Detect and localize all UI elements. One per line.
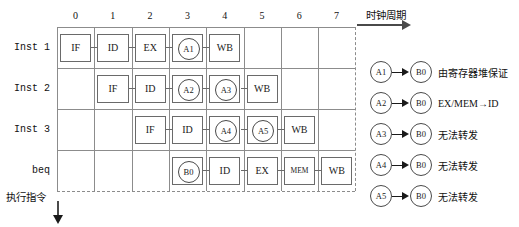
legend-source-a4: A4 (370, 154, 392, 176)
stage-box-wb: WB (321, 157, 352, 185)
stage-box-ex: EX (135, 34, 166, 62)
legend-note: 无法转发 (438, 127, 478, 142)
grid-line-v-0 (57, 27, 58, 191)
pipeline-timing-diagram: 01234567时钟周期执行指令Inst 1IFIDEXMEMWBA1Inst … (0, 0, 519, 227)
legend-target-b0: B0 (410, 185, 432, 207)
legend-arrow-icon (392, 124, 410, 144)
legend-arrow-icon (392, 155, 410, 175)
grid-line-v-1 (94, 27, 95, 191)
x-axis-caption: 时钟周期 (366, 7, 406, 22)
legend-target-b0: B0 (410, 154, 432, 176)
legend-target-b0: B0 (410, 92, 432, 114)
grid-line-v-5 (244, 27, 245, 191)
marker-circle-a2: A2 (178, 79, 200, 101)
legend-note: 无法转发 (438, 158, 478, 173)
legend-row-0: A1B0由寄存器堆保证 (370, 62, 508, 82)
legend-source-a5: A5 (370, 185, 392, 207)
stage-box-id: ID (97, 34, 128, 62)
legend-target-b0: B0 (410, 123, 432, 145)
marker-circle-a1: A1 (178, 38, 200, 60)
column-header-5: 5 (244, 10, 281, 21)
grid-line-v-3 (169, 27, 170, 191)
grid-line-v-4 (206, 27, 207, 191)
legend-row-4: A5B0无法转发 (370, 186, 478, 206)
column-header-7: 7 (318, 10, 355, 21)
column-header-6: 6 (281, 10, 318, 21)
marker-circle-a5: A5 (252, 120, 274, 142)
stage-box-if: IF (60, 34, 91, 62)
legend-note: 由寄存器堆保证 (438, 65, 508, 80)
marker-circle-b0: B0 (178, 161, 200, 183)
row-label-1: Inst 2 (2, 83, 50, 94)
stage-box-wb: WB (247, 75, 278, 103)
column-header-0: 0 (57, 10, 94, 21)
legend-note: 无法转发 (438, 189, 478, 204)
grid-line-v-6 (281, 27, 282, 191)
legend-arrow-icon (392, 62, 410, 82)
x-axis-arrow (357, 24, 411, 34)
column-header-1: 1 (94, 10, 131, 21)
legend-row-1: A2B0EX/MEM→ID (370, 93, 499, 113)
grid-line-v-2 (132, 27, 133, 191)
y-axis-caption: 执行指令 (6, 189, 46, 204)
stage-box-id: ID (135, 75, 166, 103)
column-header-4: 4 (206, 10, 243, 21)
stage-box-id: ID (172, 116, 203, 144)
column-header-2: 2 (132, 10, 169, 21)
marker-circle-a4: A4 (215, 120, 237, 142)
legend-row-2: A3B0无法转发 (370, 124, 478, 144)
stage-box-if: IF (97, 75, 128, 103)
legend-source-a3: A3 (370, 123, 392, 145)
grid-line-right-dashed (355, 27, 356, 191)
stage-box-wb: WB (209, 34, 240, 62)
legend-target-b0: B0 (410, 61, 432, 83)
y-axis-arrow (57, 201, 67, 225)
row-label-3: beq (2, 165, 50, 176)
grid-line-v-7 (318, 27, 319, 191)
stage-box-wb: WB (284, 116, 315, 144)
stage-box-if: IF (135, 116, 166, 144)
stage-box-id: ID (209, 157, 240, 185)
stage-box-ex: EX (247, 157, 278, 185)
legend-row-3: A4B0无法转发 (370, 155, 478, 175)
row-label-0: Inst 1 (2, 42, 50, 53)
legend-arrow-icon (392, 186, 410, 206)
grid-line-bottom-dashed (57, 191, 355, 192)
legend-source-a1: A1 (370, 61, 392, 83)
legend-note: EX/MEM→ID (438, 98, 499, 109)
stage-box-mem: MEM (284, 157, 315, 185)
column-header-3: 3 (169, 10, 206, 21)
legend-source-a2: A2 (370, 92, 392, 114)
row-label-2: Inst 3 (2, 124, 50, 135)
legend-arrow-icon (392, 93, 410, 113)
marker-circle-a3: A3 (215, 79, 237, 101)
